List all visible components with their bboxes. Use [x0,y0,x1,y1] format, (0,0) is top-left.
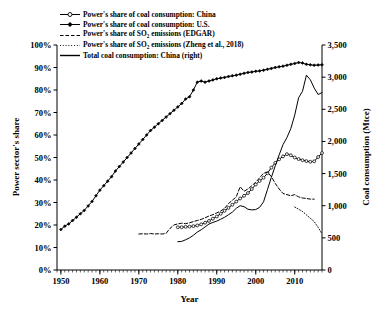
y-tick-label-left: 30% [35,198,52,208]
y-tick-label-left: 50% [35,153,52,163]
y-tick-label-right: 2,500 [328,104,347,114]
y-tick-label-left: 10% [35,243,52,253]
y-tick-label-left: 60% [35,130,52,140]
series-marker-0 [188,225,191,228]
legend-item-0[interactable]: Power's share of coal consumption: China [60,9,216,19]
x-axis-title: Year [57,294,322,304]
y-tick-label-left: 20% [35,220,52,230]
series-marker-1 [305,63,308,66]
series-marker-0 [239,197,242,200]
series-marker-1 [231,74,234,77]
series-marker-0 [176,226,179,229]
x-tick-label: 2010 [286,276,303,286]
legend-label-0: Power's share of coal consumption: China [83,10,216,19]
series-marker-1 [262,69,265,72]
series-marker-1 [204,81,207,84]
x-tick-label: 1950 [52,276,69,286]
legend-label-1: Power's share of coal consumption: U.S. [83,20,210,29]
legend-swatch-solid-line-icon [60,51,80,60]
y-tick-label-left: 90% [35,63,52,73]
series-marker-0 [180,226,183,229]
series-marker-1 [200,80,203,83]
y-tick-label-left: 70% [35,108,52,118]
series-marker-1 [254,70,257,73]
series-marker-1 [270,67,273,70]
legend-label-2: Power's share of SO2 emissions (EDGAR) [83,29,215,38]
series-marker-0 [247,192,250,195]
series-marker-1 [301,62,304,65]
y-tick-label-right: 3,000 [328,72,347,82]
x-tick-label: 1960 [91,276,108,286]
series-marker-1 [274,66,277,69]
series-marker-0 [223,209,226,212]
y-tick-label-right: 0 [328,265,332,275]
y-tick-label-left: 40% [35,175,52,185]
series-marker-1 [297,61,300,64]
series-marker-0 [289,154,292,157]
series-marker-1 [235,74,238,77]
series-marker-1 [278,65,281,68]
legend-item-4[interactable]: Total coal consumption: China (right) [60,50,202,60]
series-marker-0 [184,225,187,228]
y-axis-right-title: Coal consumption (Mtce) [361,87,371,227]
series-marker-0 [262,176,265,179]
series-marker-0 [301,159,304,162]
legend-label-4: Total coal consumption: China (right) [83,51,202,60]
series-line-4 [178,75,322,242]
series-marker-1 [219,77,222,80]
series-marker-0 [313,160,316,163]
series-marker-0 [192,225,195,228]
y-tick-label-left: 100% [30,40,51,50]
series-marker-1 [313,64,316,67]
series-marker-1 [243,72,246,75]
series-marker-0 [317,156,320,159]
series-marker-1 [211,78,214,81]
series-marker-1 [285,64,288,67]
y-tick-label-right: 3,500 [328,40,347,50]
legend-item-1[interactable]: Power's share of coal consumption: U.S. [60,19,210,29]
series-line-3 [295,207,322,234]
series-marker-0 [282,155,285,158]
y-tick-label-left: 80% [35,85,52,95]
series-marker-1 [239,73,242,76]
series-marker-1 [227,75,230,78]
series-marker-0 [297,158,300,161]
series-marker-0 [309,160,312,163]
series-line-2 [139,172,314,234]
series-marker-0 [235,200,238,203]
series-marker-1 [321,63,324,66]
x-tick-label: 1980 [169,276,186,286]
series-marker-0 [219,212,222,215]
series-marker-0 [243,194,246,197]
legend-swatch-filled-diamond-icon [60,20,80,29]
series-marker-0 [321,152,324,155]
series-marker-1 [223,76,226,79]
series-marker-0 [250,188,253,191]
series-marker-1 [289,63,292,66]
chart-figure: 0%10%20%30%40%50%60%70%80%90%100%05001,0… [0,0,386,316]
series-marker-1 [282,65,285,68]
series-marker-1 [317,64,320,67]
y-tick-label-right: 2,000 [328,136,347,146]
y-tick-label-left: 0% [39,265,52,275]
series-marker-0 [215,215,218,218]
series-marker-0 [227,206,230,209]
y-tick-label-right: 1,000 [328,201,347,211]
series-marker-1 [246,71,249,74]
series-marker-0 [211,217,214,220]
series-marker-1 [309,63,312,66]
series-marker-0 [270,166,273,169]
series-marker-0 [285,153,288,156]
series-marker-1 [266,68,269,71]
x-tick-label: 2000 [247,276,264,286]
series-marker-1 [258,69,261,72]
x-tick-label: 1990 [208,276,225,286]
series-marker-1 [250,71,253,74]
series-marker-0 [196,224,199,227]
series-marker-0 [293,156,296,159]
y-axis-left-title: Power sector's share [11,97,21,217]
y-tick-label-right: 1,500 [328,169,347,179]
series-marker-1 [215,77,218,80]
series-marker-0 [258,179,261,182]
series-marker-0 [204,221,207,224]
